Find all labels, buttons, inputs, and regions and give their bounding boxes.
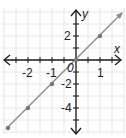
- x-tick-label: -1: [46, 66, 57, 80]
- x-axis: [4, 55, 121, 65]
- x-tick-label: 1: [97, 66, 104, 80]
- data-point: [26, 106, 30, 110]
- data-point: [98, 34, 102, 38]
- data-point: [74, 58, 78, 62]
- y-axis-label: y: [81, 7, 89, 21]
- coordinate-plane: y x 0 -2-112-2-4: [0, 0, 126, 138]
- y-tick-label: -4: [61, 101, 72, 115]
- y-tick-label: -2: [61, 77, 72, 91]
- origin-label: 0: [67, 61, 74, 75]
- data-point: [6, 126, 10, 130]
- data-point: [50, 82, 54, 86]
- y-tick-label: 2: [64, 29, 71, 43]
- x-axis-label: x: [113, 42, 121, 56]
- x-tick-label: -2: [22, 66, 33, 80]
